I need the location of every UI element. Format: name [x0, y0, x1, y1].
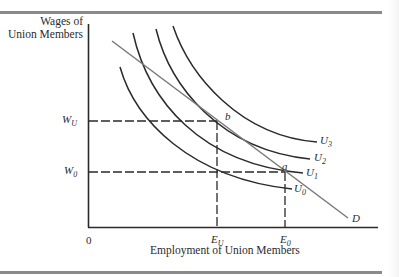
- point-b-label: b: [225, 110, 231, 122]
- u3-label: U3: [320, 134, 332, 149]
- u0-label: U0: [294, 182, 306, 197]
- demand-label: D: [352, 212, 360, 224]
- w0-tick-label: W0: [64, 164, 77, 179]
- indifference-curve-u3: [173, 26, 317, 142]
- indifference-curve-u2: [156, 29, 310, 159]
- indifference-curve-u1: [133, 33, 303, 173]
- u1-label: U1: [306, 166, 318, 181]
- x-axis-label: Employment of Union Members: [150, 244, 300, 256]
- demand-curve: [112, 41, 348, 218]
- diagram-canvas: [0, 0, 399, 277]
- indifference-curve-u0: [120, 67, 292, 189]
- point-a-label: a: [282, 160, 288, 172]
- wu-tick-label: WU: [62, 113, 77, 128]
- u2-label: U2: [314, 151, 326, 166]
- origin-label: 0: [86, 234, 92, 246]
